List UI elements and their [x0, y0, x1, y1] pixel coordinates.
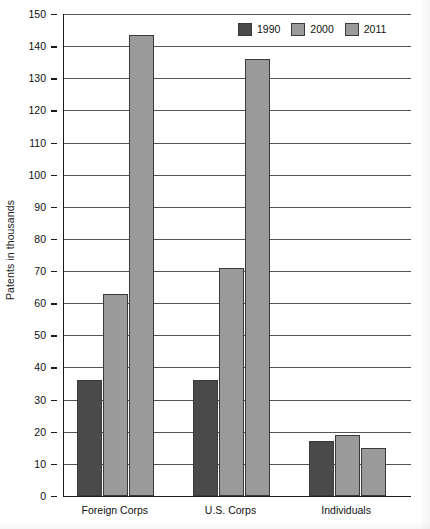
y-axis-tick-label: 100: [0, 169, 46, 181]
bar: [309, 441, 334, 496]
y-axis-tick: [51, 110, 57, 111]
y-axis-tick-label: 80: [0, 233, 46, 245]
y-axis-tick-label: 140: [0, 40, 46, 52]
y-axis-tick: [51, 46, 57, 47]
y-axis-tick: [51, 239, 57, 240]
y-axis-tick-labels: 0102030405060708090100110120130140150: [0, 14, 57, 496]
legend-item: 2000: [291, 23, 333, 36]
y-axis-tick-label: 0: [0, 490, 46, 502]
y-axis-tick: [51, 496, 57, 497]
y-axis-tick-label: 90: [0, 201, 46, 213]
x-axis-category-label: U.S. Corps: [205, 504, 256, 516]
y-axis-tick-label: 150: [0, 8, 46, 20]
x-axis-category-label: Individuals: [321, 504, 371, 516]
y-axis-tick: [51, 432, 57, 433]
bar: [129, 35, 154, 496]
y-axis-tick: [51, 14, 57, 15]
y-axis-tick-label: 50: [0, 329, 46, 341]
x-axis-category-labels: Foreign CorpsU.S. CorpsIndividuals: [63, 500, 410, 524]
y-axis-tick: [51, 335, 57, 336]
y-axis-tick: [51, 175, 57, 176]
legend-label: 2000: [310, 24, 333, 35]
y-axis-tick: [51, 464, 57, 465]
bar: [335, 435, 360, 496]
y-axis-tick: [51, 400, 57, 401]
y-axis-tick-label: 60: [0, 297, 46, 309]
y-axis-tick-label: 40: [0, 361, 46, 373]
bar: [77, 380, 102, 496]
bar: [361, 448, 386, 496]
page-edge-shading-right: [420, 0, 430, 529]
y-axis-tick-label: 130: [0, 72, 46, 84]
legend-swatch-icon: [291, 23, 305, 36]
legend-swatch-icon: [345, 23, 359, 36]
legend-label: 2011: [364, 24, 387, 35]
legend-swatch-icon: [238, 23, 252, 36]
bar: [245, 59, 270, 496]
legend-item: 2011: [345, 23, 387, 36]
y-axis-tick: [51, 78, 57, 79]
bar: [103, 294, 128, 496]
y-axis-tick: [51, 271, 57, 272]
y-axis-tick: [51, 367, 57, 368]
y-axis-tick: [51, 207, 57, 208]
y-axis-tick-label: 70: [0, 265, 46, 277]
y-axis-tick-label: 30: [0, 394, 46, 406]
x-axis-category-label: Foreign Corps: [82, 504, 149, 516]
bar-chart: Patents in thousands 0102030405060708090…: [0, 0, 430, 529]
legend: 199020002011: [236, 22, 388, 37]
bar: [219, 268, 244, 496]
y-axis-tick-label: 20: [0, 426, 46, 438]
y-axis-tick: [51, 143, 57, 144]
plot-area: [63, 14, 411, 497]
bar: [193, 380, 218, 496]
bars-layer: [64, 14, 411, 496]
legend-item: 1990: [238, 23, 280, 36]
y-axis-tick-label: 120: [0, 104, 46, 116]
y-axis-tick-label: 10: [0, 458, 46, 470]
y-axis-tick-label: 110: [0, 137, 46, 149]
legend-label: 1990: [257, 24, 280, 35]
y-axis-tick: [51, 303, 57, 304]
